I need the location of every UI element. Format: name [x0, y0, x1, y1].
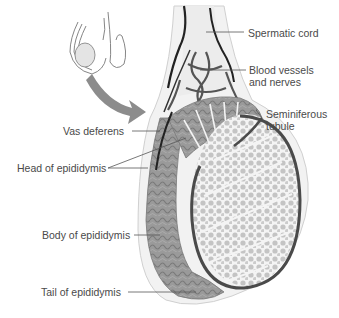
inset-figure-icon: [70, 12, 126, 74]
testis-illustration: [0, 0, 339, 318]
label-tail-epididymis: Tail of epididymis: [41, 286, 121, 298]
label-seminiferous: Seminiferous: [266, 108, 327, 120]
label-spermatic-cord: Spermatic cord: [248, 27, 319, 39]
label-head-epididymis: Head of epididymis: [17, 162, 106, 174]
label-blood-vessels: Blood vessels: [249, 64, 314, 76]
pointer-arrow-icon: [86, 74, 146, 124]
label-vas-deferens: Vas deferens: [63, 125, 124, 137]
label-and-nerves: and nerves: [249, 76, 301, 88]
label-body-epididymis: Body of epididymis: [42, 229, 130, 241]
label-tubule: tubule: [266, 120, 295, 132]
